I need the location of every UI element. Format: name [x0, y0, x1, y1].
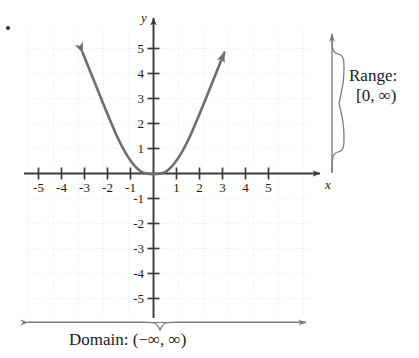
plot-layer — [0, 0, 419, 358]
y-tick-label: -5 — [120, 292, 144, 305]
x-axis — [24, 168, 320, 180]
y-tick-label: 2 — [126, 117, 144, 130]
x-tick-label: 3 — [211, 181, 234, 194]
x-tick-label: -4 — [50, 181, 73, 194]
x-axis-name: x — [325, 178, 331, 191]
range-value: [0, ∞) — [349, 86, 397, 106]
x-tick-label: -2 — [96, 181, 119, 194]
x-tick-label: 2 — [188, 181, 211, 194]
y-axis-name: y — [141, 11, 147, 24]
y-tick-label: -4 — [120, 267, 144, 280]
x-tick-label: 4 — [234, 181, 257, 194]
x-tick-label: -5 — [27, 181, 50, 194]
y-tick-label: -3 — [120, 242, 144, 255]
y-axis — [148, 18, 160, 318]
y-tick-label: 5 — [126, 42, 144, 55]
x-tick-label: 5 — [257, 181, 280, 194]
x-tick-label: -3 — [73, 181, 96, 194]
y-tick-label: 1 — [126, 142, 144, 155]
domain-brace — [28, 322, 306, 330]
domain-annotation: Domain: (−∞, ∞) — [69, 330, 186, 350]
range-title: Range: — [349, 66, 397, 85]
range-brace — [332, 34, 344, 173]
y-tick-label: -2 — [120, 217, 144, 230]
y-tick-label: 4 — [126, 67, 144, 80]
x-tick-label: 1 — [165, 181, 188, 194]
y-tick-label: -1 — [120, 192, 144, 205]
parabola-domain-range-figure: x y -5 -4 -3 -2 -1 1 2 3 4 5 5 4 3 2 1 -… — [0, 0, 419, 358]
y-tick-label: 3 — [126, 92, 144, 105]
range-annotation: Range: [0, ∞) — [349, 66, 397, 106]
